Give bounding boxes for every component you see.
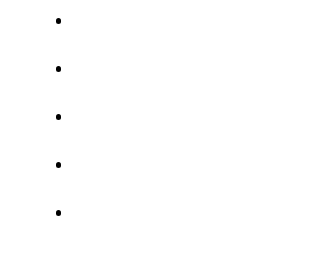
chart-plot-svg <box>0 0 317 266</box>
chart-figure <box>0 0 317 266</box>
